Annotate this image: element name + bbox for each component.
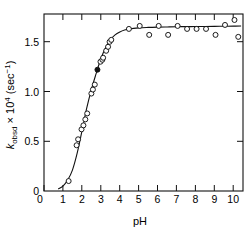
- data-point: [126, 26, 131, 31]
- data-point: [147, 32, 152, 37]
- x-axis-title: pH: [133, 215, 147, 227]
- x-tick-label: 4: [117, 193, 123, 205]
- x-tick-label: 6: [155, 193, 161, 205]
- data-points-open: [66, 17, 241, 183]
- data-point: [74, 143, 79, 148]
- y-axis-title: kobsd × 104 (sec−1): [3, 61, 19, 150]
- y-title-subscript: obsd: [10, 127, 19, 144]
- data-point: [232, 17, 237, 22]
- chart-figure: 0 1 2 3 4 5 6 7 8 9 10 0 0.5 1.0 1.5 pH …: [0, 0, 252, 237]
- data-point: [81, 123, 86, 128]
- x-axis-ticks-bottom: [44, 185, 233, 191]
- data-point: [95, 67, 100, 72]
- x-tick-label: 1: [60, 193, 66, 205]
- data-point: [66, 179, 71, 184]
- x-tick-label: 8: [192, 193, 198, 205]
- data-point: [85, 111, 90, 116]
- data-point: [166, 32, 171, 37]
- data-point: [204, 26, 209, 31]
- data-point: [213, 32, 218, 37]
- data-points-filled: [95, 67, 100, 72]
- data-point: [137, 23, 142, 28]
- x-tick-label: 2: [79, 193, 85, 205]
- y-title-units-open: (sec: [4, 73, 16, 97]
- y-axis-ticks-left: [44, 42, 50, 142]
- x-tick-labels: 0 1 2 3 4 5 6 7 8 9 10: [37, 193, 239, 205]
- x-tick-label: 10: [227, 193, 239, 205]
- data-point: [185, 26, 190, 31]
- y-tick-label: 0.5: [24, 135, 39, 147]
- data-point: [175, 23, 180, 28]
- y-tick-labels: 0 0.5 1.0 1.5: [24, 36, 39, 197]
- y-tick-label: 1.0: [24, 86, 39, 98]
- x-tick-label: 7: [173, 193, 179, 205]
- data-point: [76, 137, 81, 142]
- x-tick-label: 3: [98, 193, 104, 205]
- data-point: [194, 26, 199, 31]
- x-axis-ticks-top: [63, 14, 233, 20]
- data-point: [223, 22, 228, 27]
- data-point: [101, 55, 106, 60]
- x-tick-label: 9: [211, 193, 217, 205]
- data-point: [236, 34, 241, 39]
- y-tick-label: 0: [33, 185, 39, 197]
- y-title-units-close: ): [4, 61, 16, 65]
- y-tick-label: 1.5: [24, 36, 39, 48]
- y-title-multiplier: × 10: [4, 102, 16, 127]
- data-point: [83, 117, 88, 122]
- x-tick-label: 5: [136, 193, 142, 205]
- y-axis-ticks-right: [237, 42, 243, 142]
- data-point: [156, 23, 161, 28]
- svg-text:kobsd × 104 (sec−1): kobsd × 104 (sec−1): [3, 61, 19, 150]
- data-point: [106, 44, 111, 49]
- ph-rate-profile-plot: 0 1 2 3 4 5 6 7 8 9 10 0 0.5 1.0 1.5 pH …: [0, 0, 252, 237]
- fit-curve: [58, 26, 241, 189]
- data-point: [90, 87, 95, 92]
- data-point: [109, 37, 114, 42]
- data-point: [92, 82, 97, 87]
